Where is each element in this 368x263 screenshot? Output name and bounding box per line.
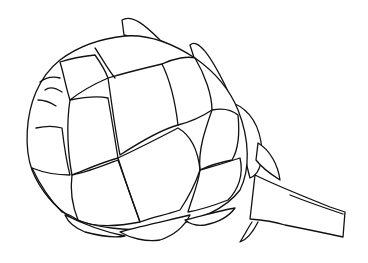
illustration-canvas — [0, 0, 368, 263]
artichoke-drawing — [0, 0, 368, 263]
artichoke-stem — [240, 175, 345, 242]
